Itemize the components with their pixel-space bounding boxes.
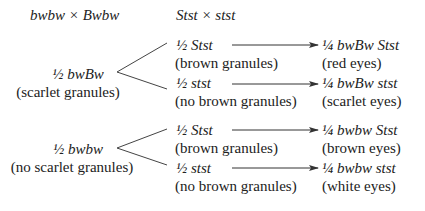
group-1-result-1-phenotype: (red eyes)	[322, 54, 382, 72]
group-1-result-2-phenotype: (scarlet eyes)	[322, 92, 402, 110]
group-1-phenotype: (scarlet granules)	[16, 83, 120, 101]
group-2-result-2-genotype: ¼ bwbw stst	[322, 159, 396, 177]
cross-st-label: Stst × stst	[176, 6, 235, 24]
group-2-branch-1-phenotype: (brown granules)	[175, 139, 278, 157]
group-2-result-2-phenotype: (white eyes)	[322, 177, 396, 195]
group-1-result-1-genotype: ¼ bwBw Stst	[322, 36, 399, 54]
group-2-branch-2-phenotype: (no brown granules)	[175, 177, 297, 195]
group-2-result-1-genotype: ¼ bwbw Stst	[322, 121, 397, 139]
cross-bw-label: bwbw × Bwbw	[30, 6, 119, 24]
group-1-genotype: ½ bwBw	[52, 65, 104, 83]
group-2-genotype: ½ bwbw	[53, 140, 103, 158]
group-2-branch-1-genotype: ½ Stst	[176, 121, 213, 139]
group-2-branch-2-genotype: ½ stst	[176, 159, 211, 177]
group-1-branch-2-phenotype: (no brown granules)	[175, 92, 297, 110]
group-1-branch-1-phenotype: (brown granules)	[175, 54, 278, 72]
group-2-phenotype: (no scarlet granules)	[11, 158, 133, 176]
group-1-branch-1-genotype: ½ Stst	[176, 36, 213, 54]
branch-lines-group-1	[117, 43, 167, 89]
group-2-result-1-phenotype: (brown eyes)	[322, 139, 401, 157]
group-1-result-2-genotype: ¼ bwBw stst	[322, 74, 397, 92]
group-1-branch-2-genotype: ½ stst	[176, 74, 211, 92]
